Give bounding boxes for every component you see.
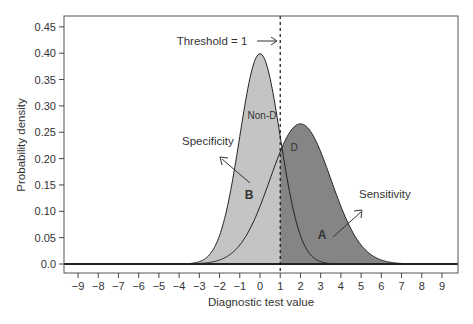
x-axis-label: Diagnostic test value — [208, 296, 314, 308]
y-tick-label: 0.45 — [35, 21, 56, 33]
y-tick-label: 0.30 — [35, 100, 56, 112]
x-axis: −9−8−7−6−5−4−3−2−10123456789 — [72, 273, 445, 292]
y-tick-label: 0.35 — [35, 74, 56, 86]
x-tick-label: −2 — [213, 280, 226, 292]
x-tick-label: 2 — [297, 280, 303, 292]
x-tick-label: −1 — [234, 280, 247, 292]
x-tick-label: 6 — [378, 280, 384, 292]
y-tick-label: 0.05 — [35, 232, 56, 244]
y-tick-label: 0.10 — [35, 205, 56, 217]
y-tick-label: 0.40 — [35, 47, 56, 59]
y-tick-label: 0.15 — [35, 179, 56, 191]
x-tick-label: −4 — [173, 280, 186, 292]
x-tick-label: 3 — [318, 280, 324, 292]
nond-label: Non-D — [248, 110, 277, 121]
x-tick-label: 9 — [439, 280, 445, 292]
x-tick-label: −6 — [132, 280, 145, 292]
x-tick-label: 5 — [358, 280, 364, 292]
y-axis: 0.00.050.100.150.200.250.300.350.400.45 — [35, 21, 64, 270]
x-tick-label: −3 — [193, 280, 206, 292]
region-b-label: B — [245, 188, 254, 202]
region-a-label: A — [318, 228, 327, 242]
x-tick-label: 4 — [338, 280, 344, 292]
density-chart: 0.00.050.100.150.200.250.300.350.400.45 … — [0, 0, 473, 324]
x-tick-label: −5 — [153, 280, 166, 292]
x-tick-label: 0 — [257, 280, 263, 292]
y-tick-label: 0.0 — [41, 258, 56, 270]
y-tick-label: 0.20 — [35, 153, 56, 165]
x-tick-label: −8 — [92, 280, 105, 292]
threshold-arrow-icon — [257, 37, 277, 45]
x-tick-label: 7 — [398, 280, 404, 292]
x-tick-label: 1 — [277, 280, 283, 292]
y-axis-label: Probability density — [15, 98, 27, 192]
sensitivity-label: Sensitivity — [359, 188, 411, 200]
d-label: D — [290, 142, 297, 153]
specificity-label: Specificity — [182, 135, 234, 147]
x-tick-label: −7 — [112, 280, 125, 292]
threshold-label: Threshold = 1 — [177, 35, 248, 47]
y-tick-label: 0.25 — [35, 126, 56, 138]
distribution-fills — [169, 54, 406, 264]
x-tick-label: −9 — [72, 280, 85, 292]
specificity-region-b — [169, 54, 280, 264]
x-tick-label: 8 — [419, 280, 425, 292]
